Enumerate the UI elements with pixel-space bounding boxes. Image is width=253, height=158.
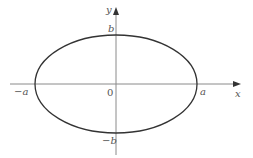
y-axis-arrow-icon (113, 7, 119, 15)
ellipse-diagram: y b −a 0 a x −b (0, 0, 253, 158)
diagram-canvas (0, 0, 253, 158)
y-axis-label: y (106, 5, 112, 15)
a-label: a (200, 87, 206, 97)
origin-label: 0 (107, 88, 113, 98)
x-axis-arrow-icon (233, 81, 241, 87)
x-axis-label: x (235, 89, 241, 99)
neg-a-label: −a (14, 87, 28, 97)
b-label: b (108, 24, 114, 34)
neg-b-label: −b (102, 136, 117, 146)
